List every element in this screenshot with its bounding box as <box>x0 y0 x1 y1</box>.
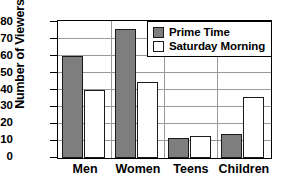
y-axis-tick-mark <box>50 89 57 90</box>
legend-item-label: Prime Time <box>169 26 230 38</box>
bar-teens-saturday-morning <box>190 136 211 158</box>
bar-children-prime-time <box>221 134 242 158</box>
y-axis-tick-mark <box>50 106 57 107</box>
y-axis-tick-label: 70 <box>0 33 13 45</box>
legend-item-label: Saturday Morning <box>169 40 265 52</box>
bar-women-saturday-morning <box>137 82 158 158</box>
y-axis-tick-mark <box>50 72 57 73</box>
legend: Prime Time Saturday Morning <box>147 21 272 57</box>
y-axis-tick-label: 30 <box>0 100 13 112</box>
y-axis-tick-mark <box>50 140 57 141</box>
y-axis-tick-label: 0 <box>0 151 13 163</box>
category-separator <box>111 21 112 158</box>
y-axis-tick-label: 50 <box>0 67 13 79</box>
y-axis-tick-label: 60 <box>0 50 13 62</box>
filled-gray-swatch-icon <box>153 27 164 38</box>
x-axis-category-label: Teens <box>165 162 218 176</box>
y-axis-tick-label: 40 <box>0 84 13 96</box>
bar-children-saturday-morning <box>243 97 264 158</box>
y-axis-tick-label: 80 <box>0 16 13 28</box>
empty-white-swatch-icon <box>153 41 164 52</box>
y-axis-tick-label: 10 <box>0 134 13 146</box>
legend-item: Prime Time <box>153 25 265 39</box>
bar-men-saturday-morning <box>84 90 105 158</box>
bar-teens-prime-time <box>168 138 189 158</box>
bar-women-prime-time <box>115 29 136 158</box>
x-axis-category-label: Women <box>112 162 165 176</box>
y-axis-tick-mark <box>50 38 57 39</box>
y-axis-tick-mark <box>50 55 57 56</box>
y-axis-tick-mark <box>50 21 57 22</box>
bar-men-prime-time <box>62 56 83 158</box>
y-axis-tick-mark <box>50 123 57 124</box>
y-axis-tick-label: 20 <box>0 117 13 129</box>
x-axis-category-label: Men <box>59 162 112 176</box>
legend-item: Saturday Morning <box>153 39 265 53</box>
bar-chart: Number of Viewers 80706050403020100 MenW… <box>0 0 285 185</box>
y-axis-tick-mark <box>50 157 57 158</box>
x-axis-category-label: Children <box>217 162 270 176</box>
y-axis-title: Number of Viewers <box>13 0 27 119</box>
